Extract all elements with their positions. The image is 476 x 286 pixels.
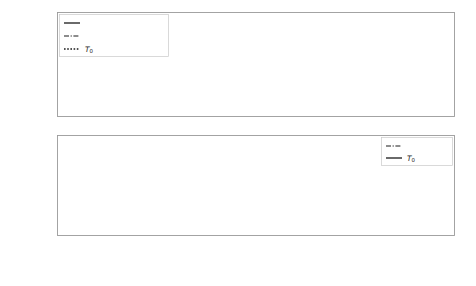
matplotlib-figure: T0 T0 (0, 0, 476, 286)
bottom-panel-legend: T0 (382, 138, 453, 166)
top-panel-legend: T0 (60, 15, 169, 57)
legend-frame-bottom (382, 138, 453, 166)
